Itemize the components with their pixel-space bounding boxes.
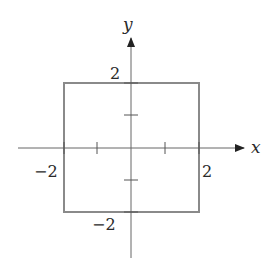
- y-top-tick-label: 2: [110, 64, 120, 83]
- x-right-tick-label: 2: [202, 162, 212, 181]
- coordinate-diagram: y x 2 −2 −2 2: [0, 0, 275, 266]
- y-axis-label: y: [122, 14, 133, 34]
- x-left-tick-label: −2: [34, 162, 58, 181]
- x-axis-label: x: [251, 137, 261, 157]
- y-bottom-tick-label: −2: [92, 215, 116, 234]
